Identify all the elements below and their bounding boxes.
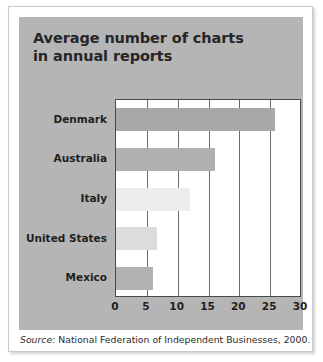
chart-panel: Average number of charts in annual repor… — [19, 17, 303, 330]
category-label-australia: Australia — [54, 152, 107, 164]
category-axis-labels: DenmarkAustraliaItalyUnited StatesMexico — [19, 99, 111, 297]
category-label-mexico: Mexico — [66, 271, 107, 283]
bar-australia — [116, 148, 215, 171]
x-tick-0: 0 — [111, 300, 118, 312]
x-tick-15: 15 — [200, 300, 215, 312]
figure-card: Average number of charts in annual repor… — [8, 6, 313, 352]
x-tick-30: 30 — [293, 300, 308, 312]
bar-denmark — [116, 108, 275, 131]
x-tick-10: 10 — [169, 300, 184, 312]
category-label-denmark: Denmark — [54, 113, 108, 125]
category-label-italy: Italy — [81, 192, 107, 204]
x-tick-5: 5 — [142, 300, 149, 312]
bar-united-states — [116, 227, 157, 250]
value-axis-tick-labels: 051015202530 — [115, 300, 301, 316]
bar-italy — [116, 188, 190, 211]
x-tick-25: 25 — [262, 300, 277, 312]
x-tick-20: 20 — [231, 300, 246, 312]
source-label: Source: — [20, 334, 55, 345]
chart-title-line-1: Average number of charts — [33, 29, 283, 47]
plot-area — [115, 99, 301, 297]
plot-wrapper — [115, 99, 301, 297]
source-note: Source: National Federation of Independe… — [20, 334, 302, 345]
page-title: Average number of charts in annual repor… — [33, 29, 283, 66]
chart-title-line-2: in annual reports — [33, 47, 283, 65]
bar-mexico — [116, 267, 153, 290]
category-label-united-states: United States — [26, 232, 107, 244]
source-text: National Federation of Independent Busin… — [58, 334, 310, 345]
